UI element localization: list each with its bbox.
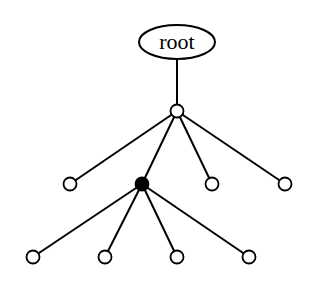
tree-node bbox=[171, 105, 184, 118]
edge-n3-n7 bbox=[105, 184, 142, 257]
nodes bbox=[27, 105, 292, 264]
tree-node bbox=[243, 251, 256, 264]
root-label: root bbox=[159, 29, 194, 54]
edge-n1-n5 bbox=[177, 111, 285, 184]
tree-node bbox=[279, 178, 292, 191]
root-node: root bbox=[139, 25, 215, 59]
tree-node bbox=[27, 251, 40, 264]
tree-node bbox=[206, 178, 219, 191]
filled-node bbox=[136, 178, 149, 191]
tree-diagram: root bbox=[0, 0, 319, 285]
edges bbox=[33, 59, 285, 257]
tree-node bbox=[171, 251, 184, 264]
edge-n3-n9 bbox=[142, 184, 249, 257]
edge-n1-n2 bbox=[70, 111, 177, 184]
tree-node bbox=[99, 251, 112, 264]
edge-n3-n6 bbox=[33, 184, 142, 257]
tree-node bbox=[64, 178, 77, 191]
